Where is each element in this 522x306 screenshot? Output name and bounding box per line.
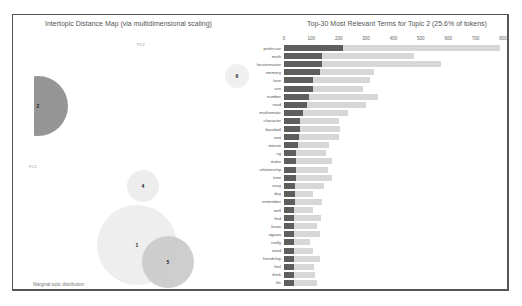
term-label[interactable]: time — [221, 175, 281, 180]
topic-frequency-bar[interactable] — [284, 118, 300, 124]
topic-frequency-bar[interactable] — [284, 102, 307, 108]
term-label[interactable]: mathematic — [221, 110, 281, 115]
x-tick: 500 — [417, 36, 425, 41]
topic-frequency-bar[interactable] — [284, 280, 294, 286]
topic-frequency-bar[interactable] — [284, 69, 320, 75]
chart-title: Top-30 Most Relevant Terms for Topic 2 (… — [307, 20, 487, 27]
term-label[interactable]: housemaster — [221, 62, 281, 67]
topic-frequency-bar[interactable] — [284, 53, 322, 59]
x-tick: 700 — [472, 36, 480, 41]
topic-frequency-bar[interactable] — [284, 272, 294, 278]
topic-frequency-bar[interactable] — [284, 248, 294, 254]
topic-frequency-bar[interactable] — [284, 207, 294, 213]
term-label[interactable]: character — [221, 118, 281, 123]
term-label[interactable]: find — [221, 216, 281, 221]
term-label[interactable]: number — [221, 94, 281, 99]
term-label[interactable]: life — [221, 280, 281, 285]
x-tick: 800 — [499, 36, 507, 41]
term-label[interactable]: well — [221, 208, 281, 213]
topic-frequency-bar[interactable] — [284, 264, 294, 270]
x-tick: 300 — [362, 36, 370, 41]
term-label[interactable]: easy — [221, 183, 281, 188]
topic-frequency-bar[interactable] — [284, 110, 303, 116]
term-label[interactable]: remember — [221, 199, 281, 204]
topic-frequency-bar[interactable] — [284, 223, 294, 229]
topic-frequency-bar[interactable] — [284, 199, 295, 205]
term-label[interactable]: relationship — [221, 167, 281, 172]
term-label[interactable]: think — [221, 272, 281, 277]
topic-label-5: 5 — [167, 259, 170, 265]
topic-frequency-bar[interactable] — [284, 94, 309, 100]
term-label[interactable]: word — [221, 248, 281, 253]
topic-frequency-bar[interactable] — [284, 231, 294, 237]
term-label[interactable]: son — [221, 86, 281, 91]
term-label[interactable]: memory — [221, 70, 281, 75]
topic-label-1: 1 — [136, 242, 139, 248]
marginal-distribution-label: Marginal topic distribution — [33, 282, 84, 287]
topic-frequency-bar[interactable] — [284, 175, 296, 181]
left-panel-title: Intertopic Distance Map (via multidimens… — [45, 20, 212, 27]
topic-frequency-bar[interactable] — [284, 167, 296, 173]
term-label[interactable]: know — [221, 224, 281, 229]
topic-frequency-bar[interactable] — [284, 142, 298, 148]
topic-label-2: 2 — [37, 103, 40, 109]
term-label[interactable]: day — [221, 191, 281, 196]
topic-frequency-bar[interactable] — [284, 126, 300, 132]
topic-frequency-bar[interactable] — [284, 150, 296, 156]
topic-frequency-bar[interactable] — [284, 239, 294, 245]
topic-frequency-bar[interactable] — [284, 256, 294, 262]
term-label[interactable]: really — [221, 240, 281, 245]
term-label[interactable]: friendship — [221, 256, 281, 261]
pc2-axis-label: PC2 — [137, 42, 145, 47]
term-label[interactable]: rig — [221, 151, 281, 156]
topic-frequency-bar[interactable] — [284, 158, 296, 164]
term-label[interactable]: make — [221, 159, 281, 164]
term-label[interactable]: read — [221, 102, 281, 107]
term-label[interactable]: professor — [221, 46, 281, 51]
topic-frequency-bar[interactable] — [284, 183, 295, 189]
topic-frequency-bar[interactable] — [284, 215, 294, 221]
term-label[interactable]: love — [221, 78, 281, 83]
topic-frequency-bar[interactable] — [284, 61, 322, 67]
pc1-axis-label: PC1 — [29, 164, 37, 169]
x-tick: 100 — [308, 36, 316, 41]
topic-label-4: 4 — [142, 183, 145, 189]
x-tick: 600 — [444, 36, 452, 41]
topic-frequency-bar[interactable] — [284, 77, 313, 83]
topic-frequency-bar[interactable] — [284, 45, 343, 51]
x-tick: 200 — [335, 36, 343, 41]
term-label[interactable]: baseball — [221, 127, 281, 132]
topic-frequency-bar[interactable] — [284, 134, 299, 140]
term-label[interactable]: math — [221, 54, 281, 59]
term-label[interactable]: root — [221, 135, 281, 140]
term-label[interactable]: minute — [221, 143, 281, 148]
x-tick: 400 — [390, 36, 398, 41]
term-label[interactable]: ogawa — [221, 232, 281, 237]
x-tick: 0 — [283, 36, 286, 41]
term-label[interactable]: feel — [221, 264, 281, 269]
topic-frequency-bar[interactable] — [284, 191, 295, 197]
topic-frequency-bar[interactable] — [284, 86, 313, 92]
